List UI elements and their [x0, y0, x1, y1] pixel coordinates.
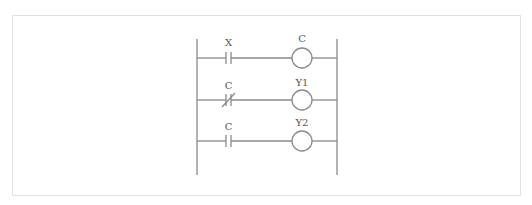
coil-icon	[292, 90, 312, 110]
ladder-diagram: X C C Y1 C Y2	[0, 0, 532, 205]
contact-label: C	[225, 80, 233, 91]
contact-label: C	[225, 121, 233, 132]
coil-label: C	[298, 33, 306, 44]
rung-3	[197, 131, 337, 151]
rung-1	[197, 48, 337, 68]
rung-2	[197, 90, 337, 110]
coil-icon	[292, 48, 312, 68]
coil-label: Y2	[295, 117, 309, 128]
coil-icon	[292, 131, 312, 151]
contact-label: X	[225, 37, 233, 48]
coil-label: Y1	[295, 77, 309, 88]
